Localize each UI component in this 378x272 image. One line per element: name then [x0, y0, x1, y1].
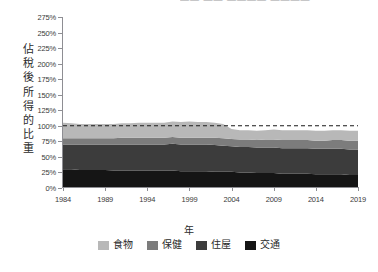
- x-axis-title: 年: [0, 222, 378, 237]
- y-axis-title-char: 得: [19, 99, 37, 113]
- x-tick: [358, 187, 359, 191]
- y-tick: [58, 157, 62, 158]
- y-tick: [58, 110, 62, 111]
- y-tick: [58, 188, 62, 189]
- y-tick-label: 100%: [38, 121, 56, 130]
- y-axis-title-char: 佔: [19, 42, 37, 56]
- y-tick: [58, 48, 62, 49]
- x-tick: [274, 187, 275, 191]
- legend-swatch-icon: [196, 241, 207, 250]
- y-axis-title-char: 稅: [19, 56, 37, 70]
- legend-swatch-icon: [245, 241, 256, 250]
- plot-area: 0%25%50%75%100%125%150%175%200%225%250%2…: [62, 17, 358, 188]
- y-tick-label: 175%: [38, 75, 56, 84]
- y-axis-title-char: 重: [19, 141, 37, 155]
- y-tick-label: 200%: [38, 59, 56, 68]
- y-tick-label: 250%: [38, 28, 56, 37]
- x-tick: [63, 187, 64, 191]
- clipped-header-label: —— —— ———— ————: [180, 0, 378, 5]
- legend-swatch-icon: [98, 241, 109, 250]
- y-axis-title-char: 後: [19, 70, 37, 84]
- y-tick: [58, 95, 62, 96]
- y-axis-title-char: 的: [19, 113, 37, 127]
- legend-label: 住屋: [211, 240, 231, 250]
- y-tick-label: 150%: [38, 90, 56, 99]
- legend-item[interactable]: 交通: [245, 240, 280, 250]
- y-tick: [58, 172, 62, 173]
- x-tick: [189, 187, 190, 191]
- x-tick-label: 2019: [350, 195, 366, 204]
- y-tick: [58, 141, 62, 142]
- x-tick: [316, 187, 317, 191]
- legend-item[interactable]: 住屋: [196, 240, 231, 250]
- y-tick-label: 50%: [42, 152, 56, 161]
- legend-label: 交通: [260, 240, 280, 250]
- x-tick-label: 1984: [55, 195, 71, 204]
- chart-legend: 食物保健住屋交通: [0, 240, 378, 250]
- y-tick-label: 0%: [46, 184, 56, 193]
- x-tick-label: 2004: [224, 195, 240, 204]
- stacked-area-series: [63, 17, 358, 188]
- legend-label: 食物: [113, 240, 133, 250]
- x-tick-label: 1989: [97, 195, 113, 204]
- x-tick-label: 1999: [181, 195, 197, 204]
- y-tick-label: 125%: [38, 106, 56, 115]
- y-tick: [58, 17, 62, 18]
- y-axis-title: 佔 稅 後 所 得 的 比 重: [19, 42, 37, 156]
- y-tick: [58, 79, 62, 80]
- legend-label: 保健: [162, 240, 182, 250]
- x-tick-label: 2014: [308, 195, 324, 204]
- legend-item[interactable]: 食物: [98, 240, 133, 250]
- x-tick: [105, 187, 106, 191]
- x-tick: [147, 187, 148, 191]
- clipped-header-text: —— —— ———— ————: [180, 0, 378, 7]
- y-axis-title-char: 比: [19, 127, 37, 141]
- y-tick: [58, 33, 62, 34]
- legend-item[interactable]: 保健: [147, 240, 182, 250]
- chart-root: —— —— ———— ———— 佔 稅 後 所 得 的 比 重 0%25%50%…: [0, 0, 378, 272]
- x-tick: [232, 187, 233, 191]
- x-tick-label: 2009: [266, 195, 282, 204]
- legend-swatch-icon: [147, 241, 158, 250]
- y-tick: [58, 64, 62, 65]
- y-axis-title-char: 所: [19, 85, 37, 99]
- x-axis-line: [62, 187, 358, 188]
- y-tick-label: 225%: [38, 44, 56, 53]
- x-tick-label: 1994: [139, 195, 155, 204]
- y-tick-label: 75%: [42, 137, 56, 146]
- y-tick-label: 275%: [38, 13, 56, 22]
- y-tick: [58, 126, 62, 127]
- y-tick-label: 25%: [42, 168, 56, 177]
- y-axis-line: [62, 17, 63, 188]
